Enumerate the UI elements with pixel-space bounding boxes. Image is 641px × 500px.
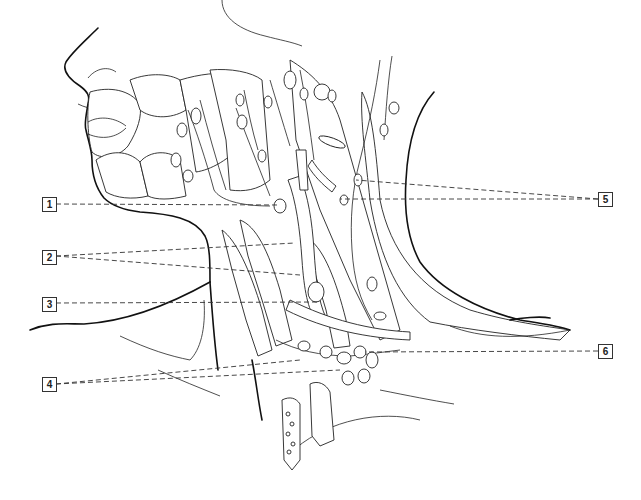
label-5: 5 <box>598 192 613 207</box>
leader-4a <box>56 360 300 384</box>
label-6: 6 <box>598 344 613 359</box>
lips-muscle <box>88 89 141 157</box>
anatomy-diagram: 1 2 3 4 5 6 <box>0 0 641 500</box>
label-4: 4 <box>42 377 57 392</box>
leader-6 <box>365 351 598 352</box>
trachea-sternum <box>282 382 334 470</box>
label-3: 3 <box>42 297 57 312</box>
label-2: 2 <box>42 250 57 265</box>
label-1: 1 <box>42 197 57 212</box>
leader-4b <box>56 370 340 384</box>
leader-5a <box>356 180 598 199</box>
